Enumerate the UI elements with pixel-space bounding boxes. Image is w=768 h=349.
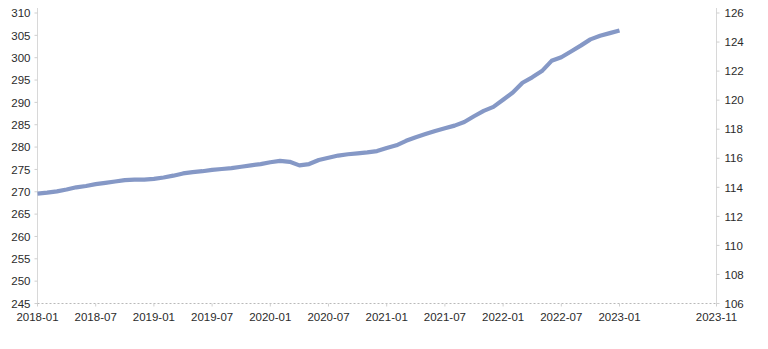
y-axis-left-label: 290 bbox=[11, 97, 30, 109]
y-axis-right-label: 126 bbox=[725, 7, 744, 19]
y-axis-right-label: 114 bbox=[725, 182, 744, 194]
x-axis-label: 2022-07 bbox=[540, 311, 582, 323]
x-axis-label: 2018-01 bbox=[16, 311, 58, 323]
y-axis-left-label: 295 bbox=[11, 74, 30, 86]
y-axis-right-label: 124 bbox=[725, 36, 745, 48]
x-axis-label: 2021-07 bbox=[424, 311, 466, 323]
y-axis-right-label: 120 bbox=[725, 94, 744, 106]
y-axis-left-label: 270 bbox=[11, 186, 30, 198]
y-axis-left-label: 275 bbox=[11, 164, 30, 176]
plot-background bbox=[0, 0, 768, 349]
y-axis-left-label: 310 bbox=[11, 7, 30, 19]
y-axis-left-label: 245 bbox=[11, 298, 30, 310]
y-axis-left-label: 300 bbox=[11, 52, 30, 64]
y-axis-right-label: 122 bbox=[725, 65, 744, 77]
x-axis-label: 2023-01 bbox=[598, 311, 640, 323]
x-axis-label: 2021-01 bbox=[366, 311, 408, 323]
x-axis-label: 2019-01 bbox=[133, 311, 175, 323]
y-axis-right-label: 110 bbox=[725, 240, 743, 252]
y-axis-right-label: 106 bbox=[725, 298, 744, 310]
x-axis-label: 2018-07 bbox=[75, 311, 117, 323]
x-axis-label: 2019-07 bbox=[191, 311, 233, 323]
y-axis-left-label: 260 bbox=[11, 231, 30, 243]
y-axis-left-label: 280 bbox=[11, 141, 30, 153]
y-axis-right-label: 112 bbox=[725, 211, 743, 223]
x-axis-label: 2020-07 bbox=[307, 311, 349, 323]
y-axis-right-label: 116 bbox=[725, 152, 743, 164]
dual-axis-line-chart: 2452502552602652702752802852902953003053… bbox=[0, 0, 768, 349]
y-axis-left-label: 285 bbox=[11, 119, 30, 131]
chart-container: 2452502552602652702752802852902953003053… bbox=[0, 0, 768, 349]
x-axis-label: 2022-01 bbox=[482, 311, 524, 323]
y-axis-left-label: 265 bbox=[11, 208, 30, 220]
y-axis-left-label: 255 bbox=[11, 253, 30, 265]
y-axis-left-label: 250 bbox=[11, 275, 30, 287]
x-axis-label: 2023-11 bbox=[696, 311, 737, 323]
y-axis-right-label: 108 bbox=[725, 269, 744, 281]
y-axis-left-label: 305 bbox=[11, 30, 30, 42]
x-axis-label: 2020-01 bbox=[249, 311, 291, 323]
y-axis-right-label: 118 bbox=[725, 123, 743, 135]
